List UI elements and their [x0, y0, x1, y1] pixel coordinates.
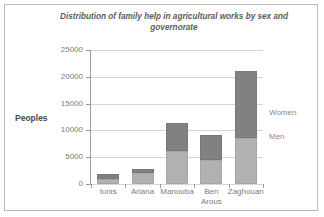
- y-tick-mark: [86, 50, 91, 51]
- y-tick-label: 25000: [43, 45, 83, 54]
- y-tick-mark: [86, 157, 91, 158]
- gridline: [91, 184, 263, 185]
- bar-zaghouan[interactable]: [235, 71, 257, 184]
- y-tick-label: 20000: [43, 72, 83, 81]
- bar-tunis[interactable]: [97, 174, 119, 184]
- y-tick-label: 10000: [43, 125, 83, 134]
- legend-label-women: Women: [269, 108, 296, 117]
- y-axis-title: Peoples: [15, 113, 48, 123]
- x-axis-label-line: Zaghouan: [222, 187, 270, 197]
- bar-manouba[interactable]: [166, 123, 188, 184]
- y-tick-label: 15000: [43, 99, 83, 108]
- bar-segment-men[interactable]: [200, 160, 222, 184]
- bar-segment-men[interactable]: [166, 151, 188, 184]
- bar-segment-men[interactable]: [235, 138, 257, 184]
- bar-series-group: [91, 50, 263, 184]
- bar-ariana[interactable]: [132, 169, 154, 184]
- y-tick-mark: [86, 130, 91, 131]
- bar-ben-arous[interactable]: [200, 135, 222, 184]
- bar-segment-men[interactable]: [132, 173, 154, 184]
- bar-segment-women[interactable]: [166, 123, 188, 151]
- x-axis-label: Zaghouan: [222, 187, 270, 197]
- plot-area: [91, 50, 263, 184]
- chart-frame: Distribution of family help in agricultu…: [4, 4, 318, 211]
- y-tick-mark: [86, 77, 91, 78]
- y-tick-label: 0: [43, 179, 83, 188]
- x-axis-label-line: Arous: [187, 197, 235, 207]
- bar-segment-men[interactable]: [97, 179, 119, 184]
- chart-title: Distribution of family help in agricultu…: [49, 11, 299, 33]
- bar-segment-women[interactable]: [235, 71, 257, 137]
- y-tick-label: 5000: [43, 152, 83, 161]
- bar-segment-women[interactable]: [200, 135, 222, 160]
- y-tick-mark: [86, 104, 91, 105]
- legend-label-men: Men: [269, 132, 285, 141]
